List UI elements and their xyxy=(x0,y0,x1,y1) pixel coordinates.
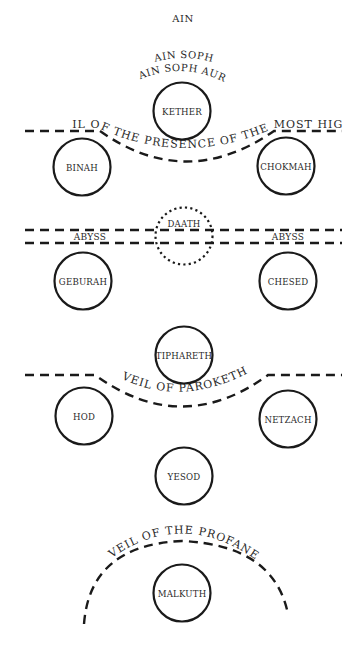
abyss-label-left: ABYSS xyxy=(73,232,107,242)
ain-label: AIN xyxy=(171,13,194,24)
abyss-label-right: ABYSS xyxy=(271,232,305,242)
sephiroth-group: KETHERBINAHCHOKMAHDAATHGEBURAHCHESEDTIPH… xyxy=(54,83,317,622)
sephirah-daath: DAATH xyxy=(156,208,213,265)
tree-of-life-diagram: AIN AIN SOPH AIN SOPH AUR VEIL OF THE PR… xyxy=(0,0,359,658)
sephirah-malkuth: MALKUTH xyxy=(154,565,211,622)
sephirah-label-yesod: YESOD xyxy=(167,472,201,482)
sephirah-chokmah: CHOKMAH xyxy=(258,138,315,195)
sephirah-tiphareth: TIPHARETH xyxy=(156,327,213,384)
ain-soph-aur-text: AIN SOPH AUR xyxy=(136,62,228,84)
sephirah-kether: KETHER xyxy=(154,83,211,140)
sephirah-label-tiphareth: TIPHARETH xyxy=(156,351,213,361)
sephirah-label-binah: BINAH xyxy=(66,163,98,173)
veil-profane-text: VEIL OF THE PROFANE xyxy=(105,523,261,562)
sephirah-chesed: CHESED xyxy=(260,253,317,310)
sephirah-label-chokmah: CHOKMAH xyxy=(260,162,312,172)
sephirah-label-hod: HOD xyxy=(73,412,95,422)
sephirah-yesod: YESOD xyxy=(156,448,213,505)
ain-soph-aur-label: AIN SOPH AUR xyxy=(136,62,228,84)
veil-profane-label: VEIL OF THE PROFANE xyxy=(105,523,261,562)
ain-soph-label: AIN SOPH xyxy=(152,49,215,64)
sephirah-netzach: NETZACH xyxy=(260,391,317,448)
ain-soph-text: AIN SOPH xyxy=(152,49,215,64)
sephirah-binah: BINAH xyxy=(54,139,111,196)
sephirah-label-kether: KETHER xyxy=(162,107,202,117)
sephirah-hod: HOD xyxy=(56,388,113,445)
sephirah-label-netzach: NETZACH xyxy=(264,415,311,425)
sephirah-label-malkuth: MALKUTH xyxy=(158,589,207,599)
sephirah-label-daath: DAATH xyxy=(167,219,200,229)
sephirah-label-chesed: CHESED xyxy=(268,277,309,287)
sephirah-label-geburah: GEBURAH xyxy=(59,277,108,287)
sephirah-geburah: GEBURAH xyxy=(55,253,112,310)
diagram-canvas: AIN AIN SOPH AIN SOPH AUR VEIL OF THE PR… xyxy=(0,0,359,658)
sephirah-circle-daath xyxy=(156,208,213,265)
